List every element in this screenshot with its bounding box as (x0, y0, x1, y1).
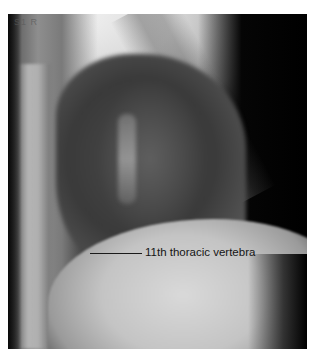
hilar-vessels (118, 114, 136, 204)
annotation-label: 11th thoracic vertebra (145, 246, 255, 258)
annotation-leader-line (90, 253, 142, 254)
film-marker: S1 R (14, 17, 38, 27)
anterior-edge (248, 254, 307, 349)
posterior-edge (8, 14, 22, 349)
radiograph-image: S1 R (8, 14, 307, 349)
